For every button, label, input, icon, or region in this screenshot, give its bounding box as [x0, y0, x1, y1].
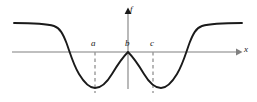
plot-canvas [0, 0, 257, 102]
point-label-a: a [91, 39, 96, 48]
function-graph-figure: f x a b c [0, 0, 257, 102]
f-axis [125, 8, 132, 90]
point-label-c: c [150, 39, 154, 48]
x-axis-arrowhead [236, 49, 243, 56]
axis-label-x: x [244, 45, 248, 54]
axis-label-f: f [130, 5, 133, 14]
point-label-b: b [125, 39, 130, 48]
